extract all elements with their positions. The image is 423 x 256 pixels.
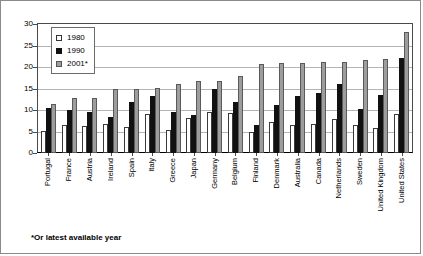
x-tick-mark xyxy=(69,153,70,156)
bar-2001-germany xyxy=(217,81,222,153)
bar-2001-denmark xyxy=(279,63,284,153)
x-axis-cell: Sweden xyxy=(350,156,371,220)
legend-swatch-1990-icon xyxy=(56,48,62,54)
bar-2001-ireland xyxy=(113,89,118,153)
bar-group xyxy=(329,24,350,153)
x-tick-label-sweden: Sweden xyxy=(356,158,364,185)
y-tick-label: 20 xyxy=(24,63,33,71)
x-tick-label-france: France xyxy=(65,158,73,181)
y-tick-label: 15 xyxy=(24,85,33,93)
x-tick-mark xyxy=(319,153,320,156)
x-axis-cell: Japan xyxy=(183,156,204,220)
y-tick-label: 30 xyxy=(24,20,33,28)
bar-2001-greece xyxy=(176,84,181,153)
y-tick-mark xyxy=(33,153,37,154)
x-tick-label-finland: Finland xyxy=(252,158,260,183)
bar-group xyxy=(225,24,246,153)
x-tick-mark xyxy=(152,153,153,156)
x-tick-label-portugal: Portugal xyxy=(44,158,52,186)
x-tick-label-united-states: United States xyxy=(398,158,406,203)
x-tick-label-germany: Germany xyxy=(211,158,219,189)
x-tick-label-italy: Italy xyxy=(148,158,156,172)
bar-2001-finland xyxy=(259,64,264,153)
bar-2001-canada xyxy=(321,62,326,153)
x-axis-cell: Netherlands xyxy=(329,156,350,220)
x-axis-cell: Denmark xyxy=(267,156,288,220)
x-axis-cell: Spain xyxy=(121,156,142,220)
bar-2001-spain xyxy=(134,89,139,154)
x-axis-cell: France xyxy=(59,156,80,220)
bar-group xyxy=(350,24,371,153)
bar-2001-france xyxy=(72,98,77,153)
legend-label-2001: 2001* xyxy=(67,60,88,68)
bar-2001-austria xyxy=(92,98,97,153)
x-tick-mark xyxy=(215,153,216,156)
x-tick-mark xyxy=(132,153,133,156)
bar-2001-italy xyxy=(155,88,160,153)
x-tick-mark xyxy=(235,153,236,156)
bar-2001-portugal xyxy=(51,104,56,153)
x-axis-cell: Austria xyxy=(80,156,101,220)
legend-item-1990: 1990 xyxy=(56,44,88,57)
x-tick-label-spain: Spain xyxy=(128,158,136,177)
bar-group xyxy=(204,24,225,153)
x-tick-mark xyxy=(111,153,112,156)
x-tick-mark xyxy=(339,153,340,156)
x-axis-cell: Finland xyxy=(246,156,267,220)
x-axis-cell: Germany xyxy=(204,156,225,220)
x-axis-cell: United Kingdom xyxy=(371,156,392,220)
x-axis-cell: Ireland xyxy=(100,156,121,220)
x-tick-label-australia: Australia xyxy=(294,158,302,187)
bar-group xyxy=(287,24,308,153)
chart-frame: 051015202530 1980 1990 2001* PortugalFra… xyxy=(0,0,421,254)
x-axis-cell: Australia xyxy=(287,156,308,220)
x-tick-mark xyxy=(277,153,278,156)
x-tick-mark xyxy=(173,153,174,156)
x-tick-mark xyxy=(360,153,361,156)
x-tick-mark xyxy=(381,153,382,156)
legend-label-1990: 1990 xyxy=(67,47,85,55)
x-axis-cell: Greece xyxy=(163,156,184,220)
bar-group xyxy=(183,24,204,153)
legend-label-1980: 1980 xyxy=(67,34,85,42)
x-axis-cell: Italy xyxy=(142,156,163,220)
x-tick-mark xyxy=(256,153,257,156)
x-tick-label-ireland: Ireland xyxy=(107,158,115,181)
x-tick-label-united-kingdom: United Kingdom xyxy=(377,158,385,211)
legend-item-1980: 1980 xyxy=(56,31,88,44)
x-axis-cell: Canada xyxy=(308,156,329,220)
y-axis: 051015202530 xyxy=(1,23,33,154)
x-tick-mark xyxy=(402,153,403,156)
x-tick-mark xyxy=(48,153,49,156)
x-axis-cell: Portugal xyxy=(38,156,59,220)
legend-item-2001: 2001* xyxy=(56,57,88,70)
bar-group xyxy=(371,24,392,153)
bar-2001-sweden xyxy=(363,60,368,153)
y-tick-label: 25 xyxy=(24,42,33,50)
bar-group xyxy=(142,24,163,153)
x-tick-label-belgium: Belgium xyxy=(231,158,239,185)
legend-swatch-1980-icon xyxy=(56,35,62,41)
y-tick-label: 10 xyxy=(24,106,33,114)
chart-legend: 1980 1990 2001* xyxy=(51,27,95,74)
x-axis-cell: Belgium xyxy=(225,156,246,220)
bar-2001-united-states xyxy=(404,32,409,153)
chart-footnote: *Or latest available year xyxy=(31,233,121,242)
bar-2001-netherlands xyxy=(342,62,347,153)
bar-group xyxy=(267,24,288,153)
bar-group xyxy=(391,24,412,153)
bar-group xyxy=(246,24,267,153)
x-tick-label-japan: Japan xyxy=(190,158,198,178)
bar-group xyxy=(100,24,121,153)
x-tick-mark xyxy=(194,153,195,156)
x-axis-labels: PortugalFranceAustriaIrelandSpainItalyGr… xyxy=(38,156,412,220)
x-axis-cell: United States xyxy=(391,156,412,220)
x-tick-mark xyxy=(298,153,299,156)
x-tick-label-denmark: Denmark xyxy=(273,158,281,188)
x-tick-label-austria: Austria xyxy=(86,158,94,181)
x-tick-mark xyxy=(90,153,91,156)
bar-2001-japan xyxy=(196,81,201,153)
bar-2001-australia xyxy=(300,63,305,153)
x-tick-label-canada: Canada xyxy=(315,158,323,184)
x-tick-label-netherlands: Netherlands xyxy=(335,158,343,198)
